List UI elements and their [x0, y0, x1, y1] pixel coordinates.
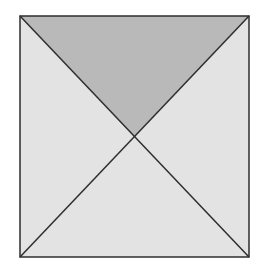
- square-diagram: [0, 0, 261, 273]
- diagram-canvas: [0, 0, 261, 273]
